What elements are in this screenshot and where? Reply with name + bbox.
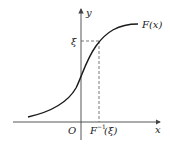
cdf-curve xyxy=(28,24,138,117)
y-axis-label: y xyxy=(85,7,92,18)
inverse-argument: (ξ) xyxy=(104,125,117,136)
xi-label: ξ xyxy=(71,36,77,47)
curve-label: F(x) xyxy=(141,19,162,30)
origin-label: O xyxy=(68,125,76,136)
cdf-diagram: y x O F(x) ξ F −1 (ξ) xyxy=(0,0,170,148)
x-axis-label: x xyxy=(155,124,161,135)
inverse-cdf-label: F −1 (ξ) xyxy=(89,123,117,136)
